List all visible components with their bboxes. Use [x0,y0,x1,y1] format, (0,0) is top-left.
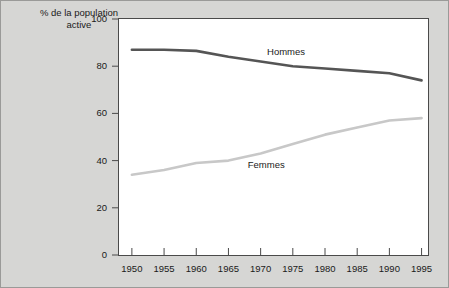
series-label-femmes: Femmes [248,160,285,170]
x-tick-label: 1970 [244,264,278,274]
series-label-hommes: Hommes [267,47,305,57]
chart-canvas [1,1,449,288]
x-tick-label: 1995 [405,264,439,274]
y-tick-label: 100 [73,14,107,24]
y-tick-label: 80 [73,61,107,71]
y-tick-label: 0 [73,250,107,260]
x-tick-label: 1980 [308,264,342,274]
y-tick-label: 20 [73,203,107,213]
x-tick-label: 1960 [179,264,213,274]
x-tick-label: 1985 [340,264,374,274]
x-tick-label: 1990 [372,264,406,274]
x-tick-label: 1965 [211,264,245,274]
y-axis-ticks [112,19,119,255]
x-tick-label: 1975 [276,264,310,274]
x-tick-label: 1955 [147,264,181,274]
y-tick-label: 40 [73,156,107,166]
series-lines [132,50,422,175]
y-tick-label: 60 [73,108,107,118]
x-tick-label: 1950 [115,264,149,274]
chart-figure: % de la populationactive 020406080100 19… [0,0,449,288]
x-axis-ticks [132,248,422,255]
